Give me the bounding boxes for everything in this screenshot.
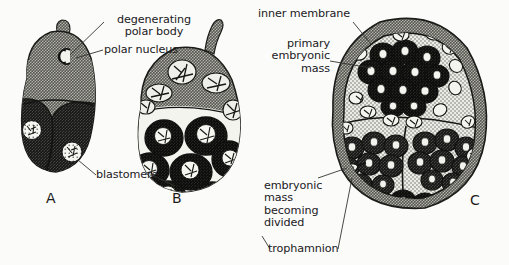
stage-letter-c: C xyxy=(470,192,480,208)
label-degenerating-polar-body: degenerating polar body xyxy=(104,14,204,39)
label-polar-nucleus: polar nucleus xyxy=(104,44,178,56)
figure-polyembryony: degenerating polar body polar nucleus bl… xyxy=(0,0,509,265)
stage-letter-a: A xyxy=(46,190,56,206)
label-blastomere: blastomere xyxy=(96,169,158,181)
stage-a-embryo xyxy=(14,20,100,176)
label-embryonic-mass-becoming-divided: embryonic mass becoming divided xyxy=(264,180,322,230)
label-trophamnion: trophamnion xyxy=(268,243,339,255)
leader-trophamnion-right xyxy=(338,178,352,249)
label-primary-embryonic-mass: primary embryonic mass xyxy=(250,38,330,75)
label-inner-membrane: inner membrane xyxy=(258,8,350,20)
blastomere-nucleus xyxy=(62,142,82,162)
polar-nucleus-mark xyxy=(58,49,70,64)
blastomere-nucleus xyxy=(23,121,42,140)
leader-blastomere-a xyxy=(78,160,96,175)
stage-c-embryo xyxy=(332,18,486,231)
leader-embryonic-mass-divided xyxy=(318,168,347,178)
stage-letter-b: B xyxy=(172,190,182,206)
